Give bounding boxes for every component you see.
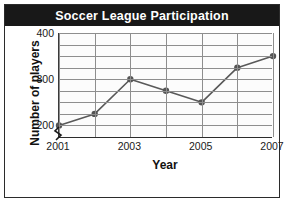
gridline-vertical xyxy=(166,33,167,137)
gridline-vertical xyxy=(237,33,238,137)
x-tick-label: 2005 xyxy=(181,140,221,152)
y-axis-title: Number of players xyxy=(28,28,42,158)
x-tick-label: 2003 xyxy=(109,140,149,152)
x-axis-tick-labels: 2001200320052007 xyxy=(58,140,272,154)
x-axis-line xyxy=(58,137,272,138)
y-axis-title-container: Number of players xyxy=(12,30,34,142)
chart-title-banner: Soccer League Participation xyxy=(5,5,279,26)
gridline-vertical xyxy=(273,33,274,137)
x-tick-label: 2007 xyxy=(252,140,284,152)
gridline-vertical xyxy=(130,33,131,137)
plot-area xyxy=(58,33,272,137)
x-tick-label: 2001 xyxy=(38,140,78,152)
chart-figure: Soccer League Participation 200300400 20… xyxy=(0,0,284,204)
page-title: Soccer League Participation xyxy=(55,9,229,23)
gridline-vertical xyxy=(202,33,203,137)
x-axis-title: Year xyxy=(58,158,272,172)
gridline-vertical xyxy=(59,33,60,137)
gridline-vertical xyxy=(95,33,96,137)
